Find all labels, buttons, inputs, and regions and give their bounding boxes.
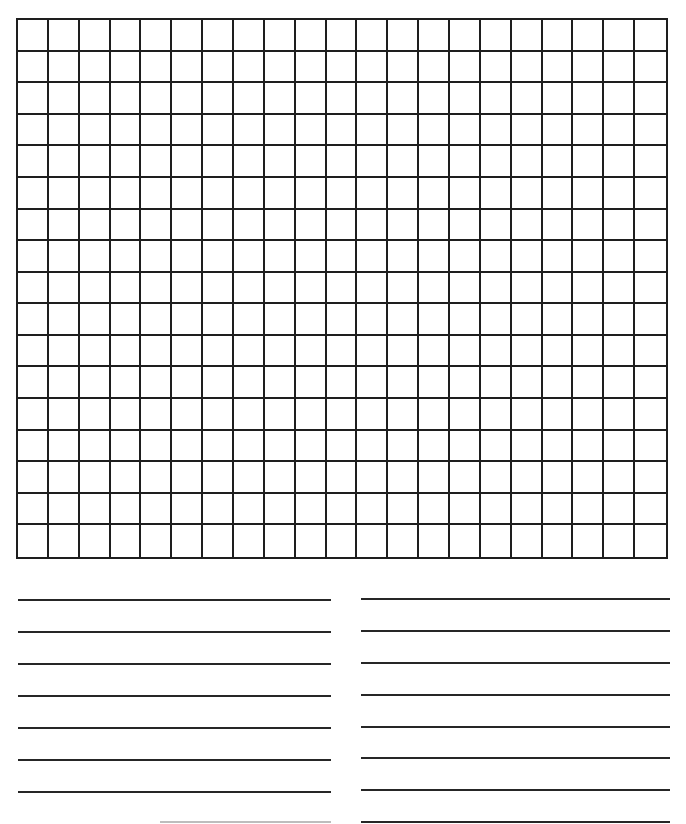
grid-cell	[543, 273, 574, 305]
grid-cell	[512, 52, 543, 84]
grid-cell	[49, 273, 80, 305]
grid-cell	[203, 115, 234, 147]
grid-cell	[141, 367, 172, 399]
grid-cell	[296, 494, 327, 526]
writing-line	[361, 598, 670, 600]
grid-cell	[203, 462, 234, 494]
grid-cell	[450, 367, 481, 399]
grid-cell	[604, 462, 635, 494]
grid-cell	[419, 273, 450, 305]
grid-cell	[512, 431, 543, 463]
grid-cell	[388, 52, 419, 84]
grid-cell	[49, 336, 80, 368]
grid-cell	[604, 52, 635, 84]
grid-cell	[172, 52, 203, 84]
grid-cell	[265, 399, 296, 431]
writing-line	[361, 630, 670, 632]
grid-cell	[481, 525, 512, 557]
grid-cell	[419, 52, 450, 84]
grid-cell	[419, 462, 450, 494]
grid-cell	[512, 367, 543, 399]
grid-cell	[234, 146, 265, 178]
grid-cell	[234, 431, 265, 463]
grid-cell	[512, 462, 543, 494]
grid-cell	[604, 20, 635, 52]
grid-cell	[357, 367, 388, 399]
grid-cell	[543, 304, 574, 336]
grid-cell	[543, 115, 574, 147]
grid-cell	[419, 304, 450, 336]
grid-cell	[296, 178, 327, 210]
grid-cell	[172, 178, 203, 210]
writing-line	[361, 694, 670, 696]
grid-cell	[388, 431, 419, 463]
grid-cell	[357, 462, 388, 494]
grid-cell	[111, 399, 142, 431]
grid-cell	[543, 431, 574, 463]
grid-cell	[111, 52, 142, 84]
grid-cell	[49, 494, 80, 526]
grid-cell	[388, 178, 419, 210]
grid-cell	[265, 273, 296, 305]
grid-cell	[635, 20, 666, 52]
grid-cell	[141, 83, 172, 115]
grid-cell	[388, 115, 419, 147]
writing-line	[361, 726, 670, 728]
grid-cell	[172, 241, 203, 273]
grid-cell	[573, 525, 604, 557]
grid-cell	[49, 525, 80, 557]
grid-cell	[573, 431, 604, 463]
grid-cell	[141, 115, 172, 147]
grid-cell	[543, 494, 574, 526]
grid-cell	[604, 525, 635, 557]
grid-cell	[512, 399, 543, 431]
grid-cell	[296, 52, 327, 84]
grid-cell	[604, 304, 635, 336]
grid-cell	[635, 525, 666, 557]
grid-cell	[635, 399, 666, 431]
grid-cell	[327, 20, 358, 52]
grid-cell	[450, 52, 481, 84]
grid-cell	[141, 304, 172, 336]
grid-cell	[172, 336, 203, 368]
grid-cell	[49, 462, 80, 494]
grid-cell	[265, 20, 296, 52]
grid-cell	[172, 525, 203, 557]
grid-cell	[296, 210, 327, 242]
grid-cell	[512, 83, 543, 115]
grid-cell	[203, 52, 234, 84]
grid-cell	[327, 525, 358, 557]
writing-line	[361, 757, 670, 759]
grid-cell	[18, 304, 49, 336]
grid-cell	[481, 462, 512, 494]
grid-cell	[296, 462, 327, 494]
grid-cell	[141, 273, 172, 305]
grid-cell	[543, 399, 574, 431]
grid-cell	[419, 494, 450, 526]
grid-cell	[18, 52, 49, 84]
grid-cell	[111, 304, 142, 336]
grid-cell	[388, 83, 419, 115]
grid-cell	[450, 83, 481, 115]
writing-line	[361, 821, 670, 823]
grid-cell	[80, 52, 111, 84]
grid-cell	[635, 210, 666, 242]
grid-cell	[141, 431, 172, 463]
grid-cell	[419, 178, 450, 210]
grid-cell	[141, 178, 172, 210]
grid-cell	[234, 241, 265, 273]
grid-cell	[265, 83, 296, 115]
grid-cell	[234, 462, 265, 494]
grid-cell	[172, 115, 203, 147]
grid-cell	[172, 210, 203, 242]
grid-cell	[80, 178, 111, 210]
grid-cell	[573, 304, 604, 336]
grid-cell	[141, 210, 172, 242]
grid-cell	[635, 273, 666, 305]
grid-cell	[111, 431, 142, 463]
grid-cell	[512, 210, 543, 242]
grid-cell	[481, 52, 512, 84]
grid-cell	[18, 273, 49, 305]
grid-cell	[234, 367, 265, 399]
grid-cell	[604, 178, 635, 210]
